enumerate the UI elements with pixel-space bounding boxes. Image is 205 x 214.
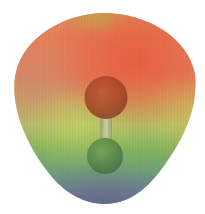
scanline-texture [0,0,205,214]
molecular-esp-figure [0,0,205,214]
screenshot-canvas [0,0,205,214]
esp-surface-render [0,0,205,214]
esp-isosurface [0,0,205,214]
